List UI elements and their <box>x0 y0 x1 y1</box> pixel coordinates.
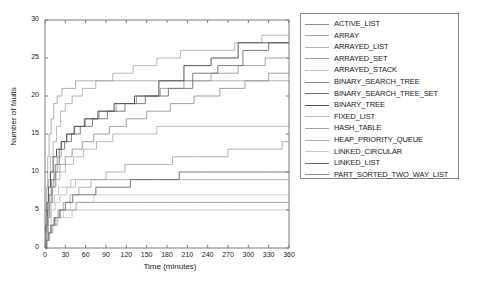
x-tick-label: 330 <box>258 251 280 258</box>
x-tick-label: 270 <box>217 251 239 258</box>
legend-line-swatch-icon <box>305 41 329 53</box>
legend-item[interactable]: BINARY_SEARCH_TREE <box>301 76 458 88</box>
legend-item-label: ARRAY <box>334 31 359 40</box>
legend-item[interactable]: LINKED_CIRCULAR <box>301 145 458 157</box>
chart-legend: ACTIVE_LISTARRAYARRAYED_LISTARRAYED_SETA… <box>300 13 459 179</box>
y-tick-label: 0 <box>19 243 39 250</box>
legend-line-swatch-icon <box>305 157 329 169</box>
legend-line-swatch-icon <box>305 52 329 64</box>
legend-line-swatch-icon <box>305 99 329 111</box>
series-line-active-list <box>45 58 289 248</box>
x-tick-label: 90 <box>95 251 117 258</box>
legend-line-swatch-icon <box>305 87 329 99</box>
legend-item-label: HEAP_PRIORITY_QUEUE <box>334 135 423 144</box>
legend-item[interactable]: LINKED_LIST <box>301 157 458 169</box>
series-line-arrayed-list <box>45 180 289 248</box>
y-tick-label: 20 <box>19 91 39 98</box>
legend-item-label: BINARY_SEARCH_TREE_SET <box>334 89 438 98</box>
x-tick-label: 30 <box>54 251 76 258</box>
legend-item[interactable]: ARRAYED_SET <box>301 52 458 64</box>
legend-item-label: HASH_TABLE <box>334 123 381 132</box>
plot-series-group <box>45 35 289 248</box>
series-line-binary-tree <box>45 43 289 248</box>
x-tick-label: 0 <box>34 251 56 258</box>
legend-item-label: ARRAYED_STACK <box>334 65 397 74</box>
x-tick-label: 60 <box>75 251 97 258</box>
legend-item[interactable]: ACTIVE_LIST <box>301 18 458 30</box>
legend-item[interactable]: BINARY_TREE <box>301 99 458 111</box>
series-line-binary-search-tree <box>45 73 289 248</box>
series-line-part-sorted-two-way-list <box>45 202 289 248</box>
legend-line-swatch-icon <box>305 64 329 76</box>
x-tick-label: 180 <box>156 251 178 258</box>
x-tick-label: 120 <box>115 251 137 258</box>
legend-item-label: LINKED_LIST <box>334 158 380 167</box>
legend-line-swatch-icon <box>305 110 329 122</box>
series-line-arrayed-stack <box>45 210 289 248</box>
x-tick-label: 210 <box>176 251 198 258</box>
x-tick-label: 300 <box>237 251 259 258</box>
legend-item[interactable]: ARRAYED_STACK <box>301 64 458 76</box>
y-axis-label: Number of faults <box>9 85 18 149</box>
legend-line-swatch-icon <box>305 168 329 180</box>
x-tick-label: 150 <box>136 251 158 258</box>
plot-axes-group <box>45 20 289 248</box>
y-tick-label: 15 <box>19 129 39 136</box>
legend-item-label: BINARY_SEARCH_TREE <box>334 77 420 86</box>
legend-line-swatch-icon <box>305 145 329 157</box>
x-tick-label: 240 <box>197 251 219 258</box>
series-line-fixed-list <box>45 180 289 248</box>
y-tick-label: 5 <box>19 205 39 212</box>
y-tick-label: 10 <box>19 167 39 174</box>
legend-item-label: ARRAYED_LIST <box>334 42 389 51</box>
legend-line-swatch-icon <box>305 134 329 146</box>
legend-item[interactable]: HEAP_PRIORITY_QUEUE <box>301 134 458 146</box>
legend-item-label: LINKED_CIRCULAR <box>334 147 402 156</box>
legend-item-label: ACTIVE_LIST <box>334 19 380 28</box>
legend-item-label: BINARY_TREE <box>334 100 385 109</box>
legend-line-swatch-icon <box>305 29 329 41</box>
x-tick-label: 360 <box>278 251 300 258</box>
legend-line-swatch-icon <box>305 122 329 134</box>
legend-item-label: PART_SORTED_TWO_WAY_LIST <box>334 170 448 179</box>
legend-item[interactable]: BINARY_SEARCH_TREE_SET <box>301 87 458 99</box>
legend-line-swatch-icon <box>305 76 329 88</box>
y-tick-label: 25 <box>19 53 39 60</box>
legend-line-swatch-icon <box>305 18 329 30</box>
legend-item[interactable]: PART_SORTED_TWO_WAY_LIST <box>301 168 458 180</box>
legend-item[interactable]: HASH_TABLE <box>301 122 458 134</box>
legend-item-label: FIXED_LIST <box>334 112 375 121</box>
legend-item[interactable]: FIXED_LIST <box>301 110 458 122</box>
series-line-binary-search-tree-set <box>45 43 289 248</box>
series-line-array <box>45 35 289 248</box>
legend-item-label: ARRAYED_SET <box>334 54 387 63</box>
legend-item[interactable]: ARRAYED_LIST <box>301 41 458 53</box>
x-axis-label: Time (minutes) <box>110 262 230 271</box>
y-tick-label: 30 <box>19 15 39 22</box>
legend-item[interactable]: ARRAY <box>301 29 458 41</box>
